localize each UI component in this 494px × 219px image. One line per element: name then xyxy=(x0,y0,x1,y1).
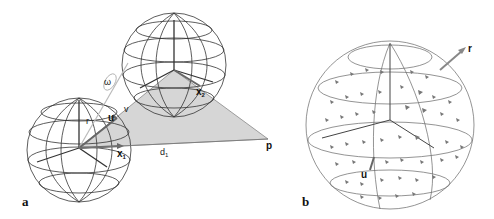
label-r-b: r xyxy=(468,43,472,54)
sphere-1 xyxy=(27,98,131,202)
label-p: p xyxy=(266,140,272,151)
label-u: u xyxy=(108,112,114,123)
panel-b: r u b xyxy=(302,41,474,209)
figure-canvas: r u v ω x1 x2 d1 p a xyxy=(0,0,494,219)
vector-field xyxy=(325,68,464,200)
label-d1: d1 xyxy=(160,147,169,158)
label-r: r xyxy=(86,116,89,126)
panel-label-b: b xyxy=(302,194,309,209)
panel-label-a: a xyxy=(22,194,29,209)
label-omega: ω xyxy=(104,77,111,87)
label-x2: x2 xyxy=(196,86,206,98)
label-v: v xyxy=(124,104,129,114)
label-u-b: u xyxy=(361,169,367,180)
panel-a: r u v ω x1 x2 d1 p a xyxy=(22,13,272,209)
sphere-b xyxy=(306,41,474,209)
label-x1: x1 xyxy=(117,148,127,160)
